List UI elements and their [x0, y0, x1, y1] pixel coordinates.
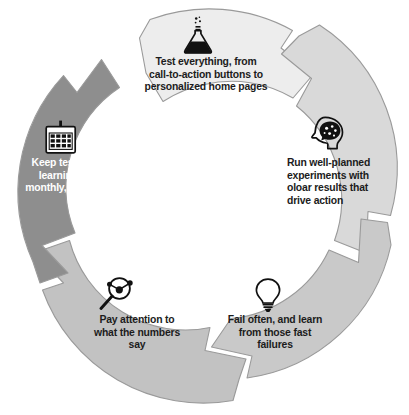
segment-label-run-experiments: Run well-planned experiments with oloar … — [287, 157, 405, 207]
segment-label-fail-often: Fail often, and learn from those fast fa… — [215, 314, 335, 352]
segment-label-keep-testing: Keep testing and learning daily, monthly… — [8, 157, 136, 195]
segment-label-test-everything: Test everything, from call-to-action but… — [122, 56, 290, 94]
segment-run-experiments — [282, 25, 398, 253]
cycle-diagram: Test everything, from call-to-action but… — [0, 0, 409, 415]
segment-label-pay-attention: Pay attention to what the numbers say — [73, 314, 201, 352]
segment-fail-often — [212, 219, 392, 378]
magnifying-glass-data-icon — [101, 278, 133, 308]
